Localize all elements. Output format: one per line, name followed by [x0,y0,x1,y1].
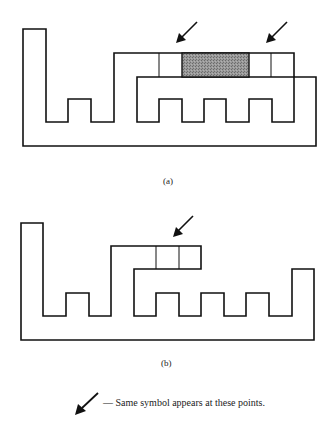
diagram-canvas [0,0,333,440]
figure-a [23,29,316,146]
figure-a-inner-shape [137,77,294,122]
figure-a-outer-shape [23,29,316,146]
legend-arrow-icon [75,393,98,415]
figure-b-outline [21,223,314,340]
arrow-icon [173,216,193,237]
figure-a-arrows [176,22,287,43]
figure-a-caption: (a) [163,176,173,186]
figure-a-shaded-block [182,53,249,77]
figure-b [21,223,314,340]
figure-b-caption: (b) [161,358,172,368]
figure-b-arrows [173,216,193,237]
arrow-icon [266,22,287,43]
arrow-icon [176,22,197,43]
legend-text: — Same symbol appears at these points. [103,397,265,408]
